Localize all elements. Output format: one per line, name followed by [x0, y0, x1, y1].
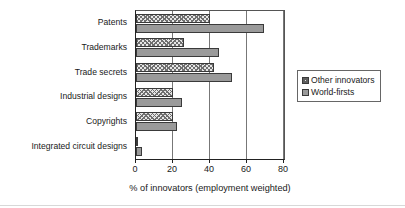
- legend-swatch-other-innovators: [302, 77, 309, 84]
- gridline: [283, 11, 284, 159]
- x-axis-tick-label: 80: [271, 164, 295, 175]
- category-label: Copyrights: [86, 115, 127, 127]
- category-label: Patents: [98, 16, 127, 28]
- legend-item-world-firsts: World-firsts: [302, 86, 375, 98]
- bar-world-firsts: [136, 98, 182, 107]
- legend-item-other-innovators: Other innovators: [302, 74, 375, 86]
- category-label: Trademarks: [81, 41, 127, 53]
- category-label: Industrial designs: [60, 90, 127, 102]
- bar-world-firsts: [136, 48, 219, 57]
- legend-swatch-world-firsts: [302, 89, 309, 96]
- bar-other-innovators: [136, 14, 210, 23]
- x-axis-tick: [283, 159, 284, 163]
- bar-world-firsts: [136, 147, 142, 156]
- x-axis-tick-label: 20: [160, 164, 184, 175]
- x-axis-title: % of innovators (employment weighted): [60, 182, 360, 194]
- x-axis-tick-label: 60: [234, 164, 258, 175]
- category-label: Trade secrets: [75, 66, 127, 78]
- x-axis-tick: [246, 159, 247, 163]
- footer-divider: [0, 205, 405, 206]
- category-label: Integrated circuit designs: [31, 140, 127, 152]
- bar-world-firsts: [136, 24, 264, 33]
- bar-chart: Integrated circuit designsCopyrightsIndu…: [0, 0, 405, 208]
- bar-world-firsts: [136, 122, 177, 131]
- x-axis-tick: [209, 159, 210, 163]
- bar-world-firsts: [136, 73, 232, 82]
- x-axis-tick-label: 40: [197, 164, 221, 175]
- bar-other-innovators: [136, 63, 214, 72]
- bar-other-innovators: [136, 137, 138, 146]
- x-axis-tick: [135, 159, 136, 163]
- x-axis-tick: [172, 159, 173, 163]
- gridline: [246, 11, 247, 159]
- plot-area: [135, 10, 285, 160]
- legend-label-world-firsts: World-firsts: [311, 87, 354, 97]
- legend-label-other-innovators: Other innovators: [311, 75, 375, 85]
- gridline: [172, 11, 173, 159]
- category-axis-labels: Integrated circuit designsCopyrightsIndu…: [0, 10, 131, 158]
- gridline: [209, 11, 210, 159]
- bar-other-innovators: [136, 112, 173, 121]
- x-axis-tick-label: 0: [123, 164, 147, 175]
- chart-legend: Other innovators World-firsts: [297, 70, 381, 102]
- bar-other-innovators: [136, 38, 184, 47]
- bar-other-innovators: [136, 88, 173, 97]
